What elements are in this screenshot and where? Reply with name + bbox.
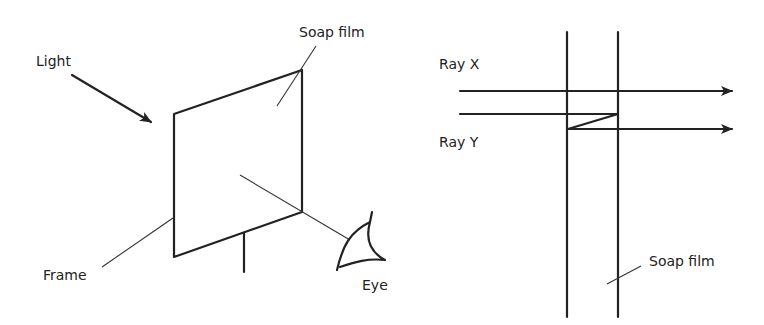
light-label: Light [36,53,71,69]
ray-y-label: Ray Y [439,134,479,150]
frame-label: Frame [43,267,87,283]
soap-film-label-left: Soap film [299,24,365,40]
eye-label: Eye [362,277,388,293]
light-arrow [72,75,151,122]
soap-film-diagram: Light Soap film Frame Eye Ray X Ray Y So… [0,0,764,325]
soap-film-leader-right [607,266,641,284]
eye-icon [337,212,385,270]
sight-line [240,175,350,240]
frame-leader [102,218,173,267]
soap-film-label-right: Soap film [649,253,715,269]
ray-x-label: Ray X [439,56,480,72]
ray-y [460,114,618,129]
right-diagram: Ray X Ray Y Soap film [439,32,732,317]
left-diagram: Light Soap film Frame Eye [36,24,388,293]
